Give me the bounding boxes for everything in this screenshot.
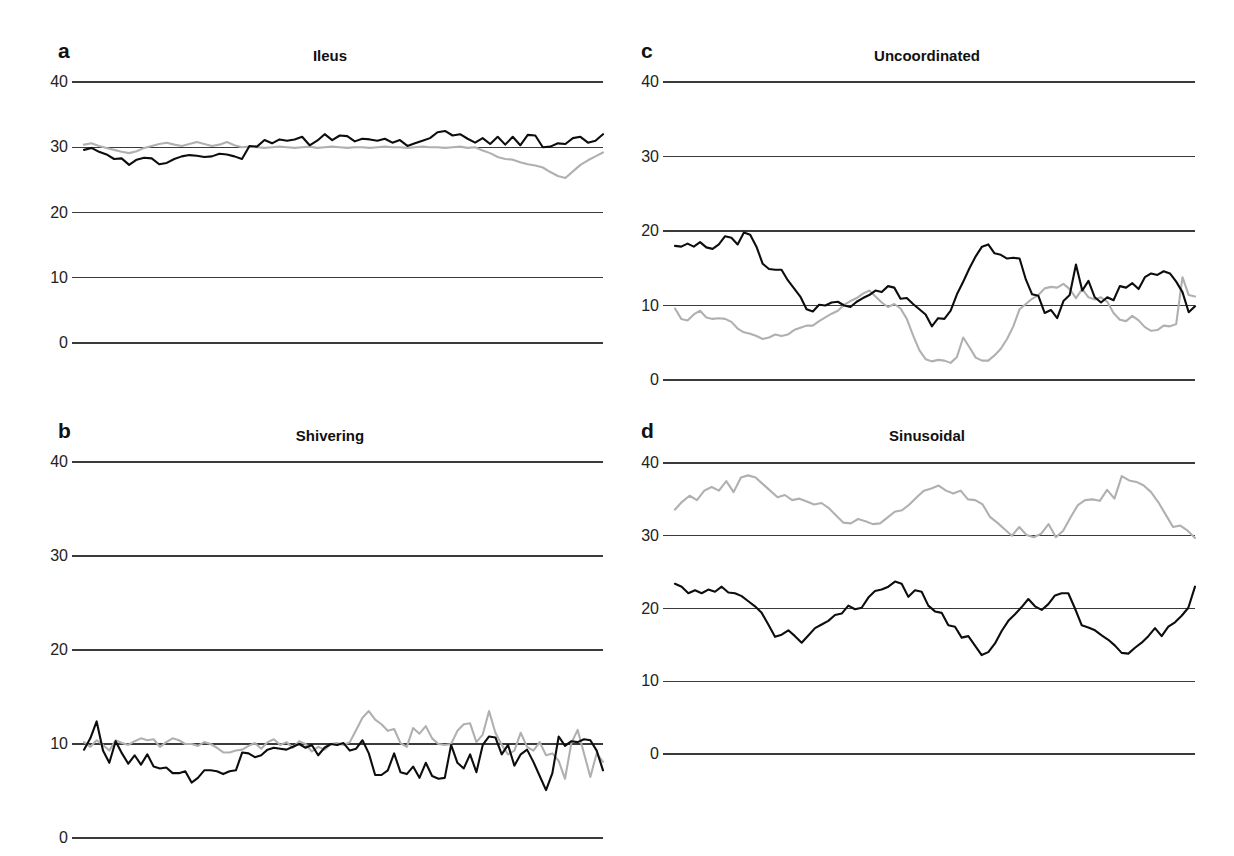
panel-d: d Sinusoidal 010203040	[617, 400, 1234, 856]
y-tick-label: 0	[26, 830, 68, 846]
panel-d-plot	[617, 400, 1234, 856]
panel-c-plot	[617, 0, 1234, 400]
y-tick-label: 30	[617, 149, 659, 165]
y-tick-label: 20	[26, 642, 68, 658]
y-tick-label: 10	[26, 270, 68, 286]
figure-root: a Ileus 010203040 b Shivering 010203040 …	[0, 0, 1234, 856]
y-tick-label: 40	[617, 455, 659, 471]
panel-b: b Shivering 010203040	[0, 400, 617, 856]
panel-a: a Ileus 010203040	[0, 0, 617, 400]
y-tick-label: 0	[617, 372, 659, 388]
y-tick-label: 10	[617, 673, 659, 689]
y-tick-label: 20	[26, 205, 68, 221]
series-line-dark	[675, 582, 1195, 655]
series-line-gray	[675, 475, 1195, 538]
y-tick-label: 30	[617, 528, 659, 544]
panel-c: c Uncoordinated 010203040	[617, 0, 1234, 400]
y-tick-label: 10	[26, 736, 68, 752]
y-tick-label: 30	[26, 548, 68, 564]
y-tick-label: 0	[26, 335, 68, 351]
y-tick-label: 0	[617, 746, 659, 762]
y-tick-label: 40	[617, 74, 659, 90]
y-tick-label: 20	[617, 223, 659, 239]
y-tick-label: 40	[26, 454, 68, 470]
y-tick-label: 10	[617, 298, 659, 314]
y-tick-label: 40	[26, 74, 68, 90]
series-line-dark	[675, 232, 1195, 326]
y-tick-label: 20	[617, 601, 659, 617]
series-line-dark	[84, 721, 603, 790]
y-tick-label: 30	[26, 139, 68, 155]
panel-a-plot	[0, 0, 617, 400]
panel-b-plot	[0, 400, 617, 856]
